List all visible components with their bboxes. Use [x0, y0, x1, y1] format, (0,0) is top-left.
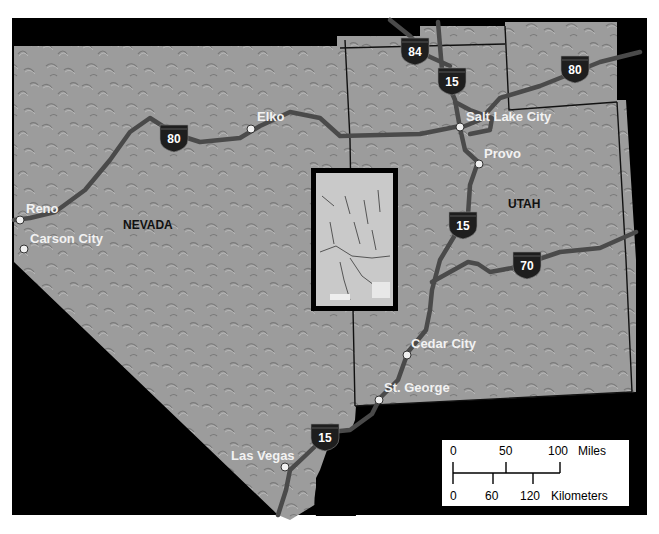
shield-number: 80 [167, 132, 181, 146]
city-dot-st-george [375, 396, 383, 404]
city-dot-reno [16, 216, 24, 224]
city-dot-elko [247, 125, 255, 133]
regional-map: Reno Carson City Elko Salt Lake City Pro… [0, 0, 659, 534]
scale-km-unit: Kilometers [551, 489, 608, 503]
interstate-shield: 80 [160, 125, 188, 152]
interstate-shield: 15 [311, 424, 339, 451]
scale-miles-tick-100: 100 [548, 444, 568, 458]
interstate-shield: 70 [513, 252, 541, 279]
city-dot-salt-lake-city [456, 123, 464, 131]
city-dot-cedar-city [403, 351, 411, 359]
city-label-provo: Provo [484, 146, 521, 161]
interstate-shield: 80 [561, 56, 589, 83]
city-dot-carson-city [20, 245, 28, 253]
city-dot-provo [475, 160, 483, 168]
city-label-st-george: St. George [384, 380, 450, 395]
state-label-nevada: NEVADA [123, 218, 173, 232]
shield-number: 15 [318, 431, 332, 445]
city-label-cedar-city: Cedar City [411, 336, 477, 351]
city-dot-las-vegas [281, 463, 289, 471]
study-area-inset-map [311, 168, 398, 311]
shield-number: 15 [456, 219, 470, 233]
shield-number: 80 [568, 63, 582, 77]
scale-miles-tick-50: 50 [499, 444, 513, 458]
scale-miles-tick-0: 0 [450, 444, 457, 458]
scale-km-tick-120: 120 [520, 489, 540, 503]
state-label-utah: UTAH [508, 197, 540, 211]
shield-number: 84 [408, 45, 422, 59]
scale-km-tick-60: 60 [485, 489, 499, 503]
city-label-salt-lake-city: Salt Lake City [466, 109, 552, 124]
interstate-shield: 84 [401, 38, 429, 65]
city-label-las-vegas: Las Vegas [231, 448, 295, 463]
shield-number: 15 [445, 75, 459, 89]
city-label-reno: Reno [26, 201, 59, 216]
interstate-shield: 15 [449, 212, 477, 239]
city-label-elko: Elko [257, 109, 285, 124]
scale-km-tick-0: 0 [450, 489, 457, 503]
interstate-shield: 15 [438, 68, 466, 95]
scale-miles-unit: Miles [578, 444, 606, 458]
shield-number: 70 [520, 259, 534, 273]
scale-bar: 0 50 100 Miles 0 60 120 Kilometers [442, 440, 629, 506]
city-label-carson-city: Carson City [30, 231, 104, 246]
